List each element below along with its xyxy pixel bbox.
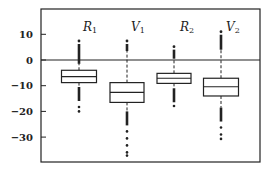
- outlier-point: [220, 126, 223, 129]
- outlier-point: [126, 40, 129, 43]
- outlier-point: [78, 40, 81, 43]
- box-series: [62, 30, 239, 157]
- outlier-point: [78, 110, 81, 113]
- box-v1: [110, 40, 144, 157]
- y-tick-label: −20: [11, 106, 33, 117]
- outlier-point: [173, 45, 176, 48]
- box-r1: [62, 40, 97, 113]
- box-plot: 100−10−20−30 R1V1R2V2: [0, 0, 273, 171]
- outlier-point: [220, 133, 223, 136]
- y-tick-label: 0: [26, 55, 33, 66]
- series-label-r2: R2: [179, 20, 194, 35]
- outlier-point: [126, 154, 129, 157]
- y-tick-label: −30: [11, 132, 33, 143]
- box-v2: [204, 30, 239, 140]
- series-label-v2: V2: [226, 20, 240, 35]
- outlier-point: [126, 137, 129, 140]
- series-labels: R1V1R2V2: [82, 20, 240, 35]
- outlier-point: [220, 138, 223, 141]
- series-label-v1: V1: [131, 20, 145, 35]
- outlier-point: [220, 30, 223, 33]
- outlier-point: [126, 130, 129, 133]
- outlier-point: [78, 106, 81, 109]
- series-label-r1: R1: [82, 20, 97, 35]
- y-tick-label: 10: [19, 29, 33, 40]
- outlier-point: [126, 144, 129, 147]
- box-r2: [157, 45, 191, 107]
- y-tick-label: −10: [11, 80, 33, 91]
- outlier-point: [173, 105, 176, 108]
- outlier-point: [126, 151, 129, 154]
